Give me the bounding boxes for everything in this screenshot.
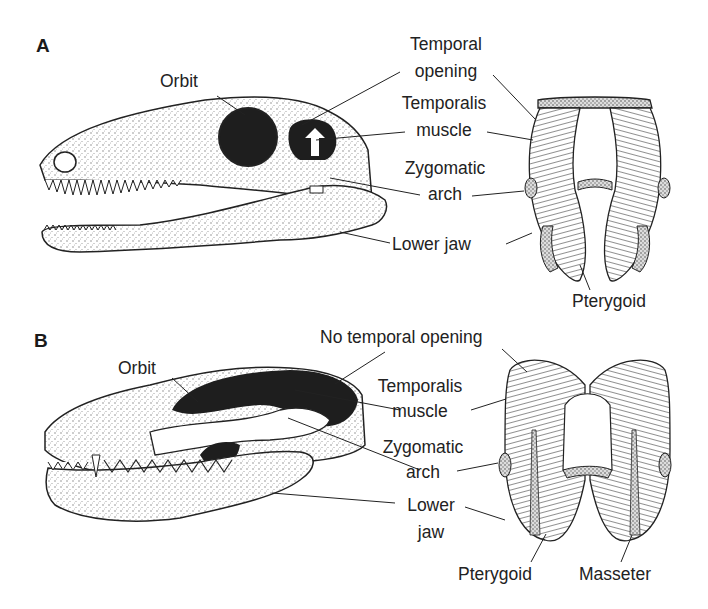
label-b-zygomatic-line2: arch: [373, 462, 473, 482]
reptile-jaw-muscles-front-view: [472, 75, 670, 290]
label-a-zygomatic-line1: Zygomatic: [390, 158, 500, 178]
mammal-jaw-muscles-front-view: [457, 349, 671, 562]
label-a-temporal-opening-line2: opening: [396, 61, 496, 81]
label-b-no-temporal-opening: No temporal opening: [320, 327, 482, 347]
label-b-pterygoid: Pterygoid: [458, 564, 532, 584]
reptile-skull-side-view: [40, 72, 420, 252]
panel-b-letter: B: [34, 330, 48, 352]
label-b-lower-jaw-line2: jaw: [396, 522, 466, 542]
label-a-temporalis-line2: muscle: [388, 120, 500, 140]
label-b-zygomatic-line1: Zygomatic: [373, 437, 473, 457]
panel-a-letter: A: [36, 35, 50, 57]
label-b-temporalis-line1: Temporalis: [364, 376, 476, 396]
label-b-masseter: Masseter: [579, 564, 651, 584]
label-a-temporalis-line1: Temporalis: [388, 93, 500, 113]
label-b-lower-jaw-line1: Lower: [396, 495, 466, 515]
label-b-orbit: Orbit: [118, 358, 156, 378]
label-a-zygomatic-line2: arch: [390, 184, 500, 204]
label-b-temporalis-line2: muscle: [364, 401, 476, 421]
label-a-lower-jaw: Lower jaw: [392, 234, 471, 254]
label-a-pterygoid: Pterygoid: [572, 291, 646, 311]
label-a-orbit: Orbit: [160, 71, 198, 91]
label-a-temporal-opening-line1: Temporal: [396, 34, 496, 54]
